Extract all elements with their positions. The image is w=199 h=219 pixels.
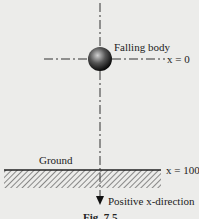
falling-body-ball <box>88 47 112 71</box>
figure-caption: Fig. 7.5 <box>83 212 118 219</box>
ground-label: Ground <box>39 155 73 166</box>
body-label: Falling body <box>114 42 170 53</box>
ground-position-label: x = 100 <box>166 165 199 176</box>
start-position-label: x = 0 <box>167 54 190 65</box>
direction-label: Positive x-direction <box>108 196 194 207</box>
direction-arrow-icon <box>96 196 104 205</box>
falling-body-diagram <box>0 0 199 219</box>
ground-hatching <box>4 170 161 188</box>
